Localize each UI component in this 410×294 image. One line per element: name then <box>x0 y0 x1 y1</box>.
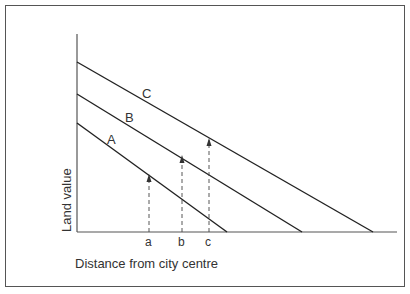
y-axis-title: Land value <box>59 168 74 232</box>
line-b <box>77 94 302 232</box>
arrow-head-a <box>147 174 152 182</box>
line-c <box>77 62 373 232</box>
marker-label-c: c <box>205 235 211 249</box>
marker-label-a: a <box>145 235 152 249</box>
marker-label-b: b <box>178 235 185 249</box>
bid-rent-diagram: C B A a b c Distance from city centre La… <box>0 0 410 294</box>
series-label-a: A <box>107 132 116 147</box>
x-axis-title: Distance from city centre <box>75 256 218 271</box>
series-label-c: C <box>142 86 151 101</box>
series-label-b: B <box>125 110 134 125</box>
